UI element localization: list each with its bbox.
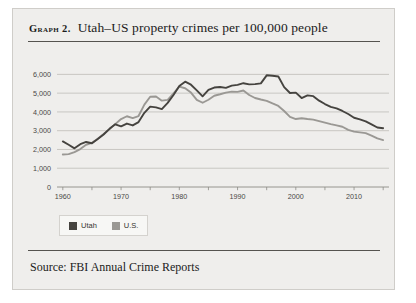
- svg-text:2,000: 2,000: [33, 145, 51, 154]
- page-title: Graph 2. Utah–US property crimes per 100…: [29, 18, 328, 36]
- legend-item-us: U.S.: [112, 222, 139, 230]
- chart-y-tick-labels: 01,0002,0003,0004,0005,0006,000: [33, 70, 51, 192]
- legend-swatch-us: [112, 222, 120, 230]
- legend-item-utah: Utah: [69, 222, 97, 230]
- figure-number-label: Graph 2.: [29, 23, 71, 34]
- source-divider: [28, 250, 380, 251]
- chart-legend: Utah U.S.: [59, 215, 148, 236]
- chart-series-layer: [63, 75, 383, 154]
- svg-text:1960: 1960: [55, 192, 71, 201]
- svg-text:1970: 1970: [113, 192, 129, 201]
- figure-title-label: Utah–US property crimes per 100,000 peop…: [78, 20, 328, 35]
- figure-panel: Graph 2. Utah–US property crimes per 100…: [12, 8, 395, 290]
- chart-plot-area: 01,0002,0003,0004,0005,0006,000 19601970…: [13, 55, 396, 215]
- svg-text:6,000: 6,000: [33, 70, 51, 79]
- svg-text:2000: 2000: [288, 192, 304, 201]
- svg-text:4,000: 4,000: [33, 108, 51, 117]
- svg-text:0: 0: [47, 183, 51, 192]
- line-chart-svg: 01,0002,0003,0004,0005,0006,000 19601970…: [13, 55, 396, 215]
- legend-label-us: U.S.: [124, 222, 139, 230]
- source-note: Source: FBI Annual Crime Reports: [30, 260, 199, 275]
- svg-text:1,000: 1,000: [33, 164, 51, 173]
- title-divider: [28, 41, 380, 42]
- legend-swatch-utah: [69, 222, 77, 230]
- svg-text:3,000: 3,000: [33, 126, 51, 135]
- svg-text:1990: 1990: [230, 192, 246, 201]
- chart-x-tick-marks: [63, 187, 383, 190]
- svg-text:1980: 1980: [171, 192, 187, 201]
- chart-x-tick-labels: 196019701980199020002010: [55, 192, 362, 201]
- svg-text:2010: 2010: [346, 192, 362, 201]
- legend-label-utah: Utah: [81, 222, 97, 230]
- figure-title-block: Graph 2. Utah–US property crimes per 100…: [13, 9, 394, 47]
- svg-text:5,000: 5,000: [33, 89, 51, 98]
